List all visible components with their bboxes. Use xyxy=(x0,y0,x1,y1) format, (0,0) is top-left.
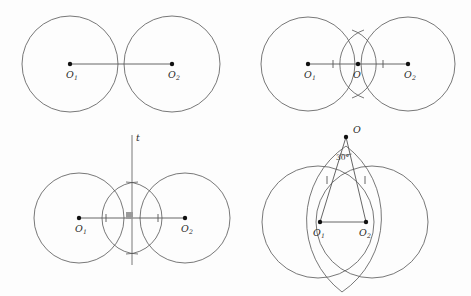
point-o2-label: O xyxy=(404,69,412,80)
geometry-figure-root: O1O2O1OO2tO1O230°OO1O2 xyxy=(0,0,471,296)
step-4-thirty-degree-apex: 30°OO1O2 xyxy=(262,124,428,292)
point-o2-subscript: 2 xyxy=(188,228,193,235)
point-apex-o xyxy=(344,135,348,139)
angle-label-30: 30° xyxy=(336,153,350,162)
point-o2 xyxy=(170,62,174,66)
point-o2-label: O xyxy=(168,69,176,80)
point-o1 xyxy=(77,216,81,220)
step-1-two-tangent-circles: O1O2 xyxy=(22,16,220,112)
segment-apex-o2 xyxy=(346,137,366,222)
point-o1 xyxy=(318,220,322,224)
point-o2-label: O xyxy=(181,223,189,234)
point-o1 xyxy=(68,62,72,66)
point-o2 xyxy=(364,220,368,224)
point-o1-subscript: 1 xyxy=(312,74,316,81)
point-o1-subscript: 1 xyxy=(321,232,325,239)
point-o1-label: O xyxy=(313,227,321,238)
lens-arc-right xyxy=(342,146,381,292)
point-o1-subscript: 1 xyxy=(74,74,78,81)
line-t-label: t xyxy=(136,132,140,143)
point-o2-subscript: 2 xyxy=(175,74,180,81)
point-o1-label: O xyxy=(66,69,74,80)
lens-arc-left xyxy=(307,146,346,292)
step-3-perpendicular-bisector: tO1O2 xyxy=(34,132,230,265)
segment-apex-o1 xyxy=(320,137,346,222)
construction-diagram: O1O2O1OO2tO1O230°OO1O2 xyxy=(0,0,471,296)
point-o1-subscript: 1 xyxy=(83,228,87,235)
point-o1-label: O xyxy=(304,69,312,80)
step-2-midpoint-arcs: O1OO2 xyxy=(261,17,455,111)
point-o2-label: O xyxy=(359,227,367,238)
point-o-mid xyxy=(356,62,360,66)
point-o2-subscript: 2 xyxy=(411,74,416,81)
point-o2 xyxy=(406,62,410,66)
point-o1-label: O xyxy=(75,223,83,234)
right-angle-mark xyxy=(126,212,133,219)
point-o2-subscript: 2 xyxy=(366,232,371,239)
point-o2 xyxy=(183,216,187,220)
point-o1 xyxy=(306,62,310,66)
point-apex-o-label: O xyxy=(353,124,361,135)
point-o-mid-label: O xyxy=(353,69,361,80)
